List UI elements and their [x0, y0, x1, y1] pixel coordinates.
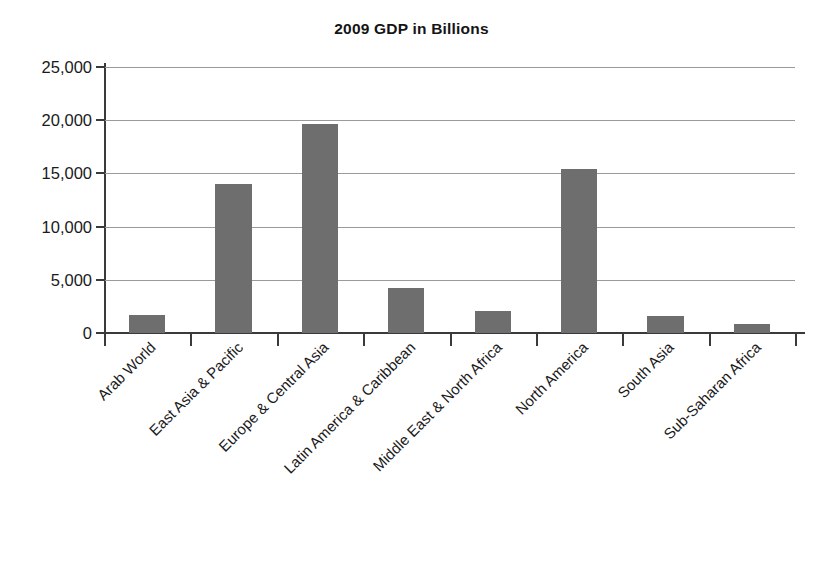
bar[interactable] [215, 184, 251, 333]
bar[interactable] [475, 311, 511, 333]
y-axis-tick-label: 0 [0, 324, 92, 343]
x-axis-tick-label: Arab World [94, 338, 159, 403]
x-axis-tick-mark [622, 334, 624, 346]
y-axis-tick-label: 20,000 [0, 111, 92, 130]
bars-layer [104, 67, 795, 333]
y-axis-tick-mark [96, 66, 105, 68]
y-axis-tick-label: 5,000 [0, 270, 92, 289]
x-axis-tick-mark [277, 334, 279, 346]
bar[interactable] [561, 169, 597, 333]
y-axis-tick-mark [96, 226, 105, 228]
x-axis-tick-label: North America [512, 338, 591, 417]
x-axis-tick-mark [709, 334, 711, 346]
y-axis-tick-labels: 05,00010,00015,00020,00025,000 [0, 0, 92, 567]
bar[interactable] [734, 324, 770, 333]
x-axis-tick-mark [450, 334, 452, 346]
y-axis-tick-mark [96, 172, 105, 174]
x-axis-tick-label: East Asia & Pacific [145, 338, 245, 438]
y-axis-tick-label: 10,000 [0, 217, 92, 236]
y-axis-tick-label: 25,000 [0, 58, 92, 77]
bar[interactable] [388, 288, 424, 333]
bar-chart-figure: 2009 GDP in Billions 05,00010,00015,0002… [0, 0, 823, 567]
bar[interactable] [647, 316, 683, 333]
chart-title: 2009 GDP in Billions [0, 20, 823, 38]
x-axis-tick-mark [536, 334, 538, 346]
x-axis-tick-mark [190, 334, 192, 346]
y-axis-tick-label: 15,000 [0, 164, 92, 183]
bar[interactable] [129, 315, 165, 333]
x-axis-tick-label: South Asia [614, 338, 677, 401]
x-axis-tick-mark [104, 334, 106, 346]
y-axis-tick-mark [96, 279, 105, 281]
y-axis-tick-mark [96, 119, 105, 121]
bar[interactable] [302, 124, 338, 333]
x-axis-tick-mark [363, 334, 365, 346]
x-axis-tick-label: Sub-Saharan Africa [660, 338, 764, 442]
x-axis-tick-mark [795, 334, 797, 346]
